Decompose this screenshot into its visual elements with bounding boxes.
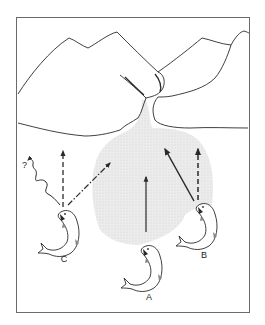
- fish-a-label: A: [146, 292, 152, 302]
- salmon-homing-diagram: ? C A B: [0, 0, 265, 325]
- fish-c-label: C: [61, 254, 68, 264]
- question-mark: ?: [22, 160, 27, 170]
- fish-b-label: B: [201, 250, 207, 260]
